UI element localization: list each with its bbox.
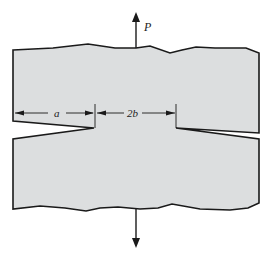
- load-arrow-down: [132, 209, 140, 248]
- crack-length-label: a: [54, 107, 60, 119]
- specimen-body: [13, 44, 259, 211]
- arrowhead-down-icon: [132, 238, 140, 248]
- fracture-specimen-diagram: P a 2b: [0, 0, 273, 259]
- ligament-label: 2b: [127, 107, 139, 119]
- arrowhead-up-icon: [132, 12, 140, 22]
- load-label: P: [143, 20, 152, 34]
- load-arrow-up: [132, 12, 140, 48]
